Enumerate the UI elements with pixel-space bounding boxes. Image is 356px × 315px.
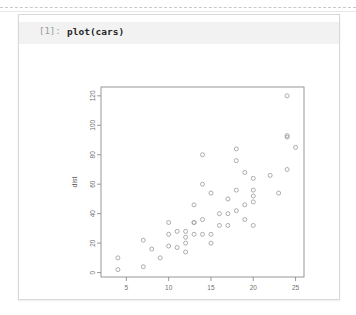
data-point — [175, 246, 179, 250]
y-axis-tick-label: 0 — [90, 270, 97, 274]
data-point — [167, 221, 171, 225]
y-axis-tick-label: 100 — [90, 119, 97, 130]
code-input-text[interactable]: plot(cars) — [67, 26, 124, 37]
data-point — [226, 223, 230, 227]
data-point — [167, 244, 171, 248]
data-point — [116, 256, 120, 260]
code-input-band[interactable]: [1]: plot(cars) — [19, 22, 339, 44]
data-point — [209, 241, 213, 245]
data-point — [201, 218, 205, 222]
scatter-plot: 020406080100120510152025speeddist — [19, 49, 341, 299]
x-axis-tick-label: 5 — [125, 284, 129, 291]
top-solid-rule — [0, 11, 356, 12]
data-point — [150, 247, 154, 251]
y-axis-tick-label: 60 — [90, 180, 97, 188]
data-point — [234, 159, 238, 163]
data-point — [294, 145, 298, 149]
data-point — [268, 173, 272, 177]
data-point — [243, 170, 247, 174]
data-point — [167, 232, 171, 236]
data-point — [251, 188, 255, 192]
data-point — [141, 265, 145, 269]
y-axis-title: dist — [71, 177, 78, 188]
data-point — [226, 197, 230, 201]
data-point — [184, 229, 188, 233]
data-point — [192, 232, 196, 236]
x-axis-tick-label: 15 — [207, 284, 215, 291]
data-point — [184, 250, 188, 254]
data-point — [192, 221, 196, 225]
data-point — [158, 256, 162, 260]
data-point — [184, 241, 188, 245]
data-point — [234, 209, 238, 213]
data-point — [234, 188, 238, 192]
notebook-cell-card: [1]: plot(cars) 020406080100120510152025… — [18, 14, 340, 300]
data-point — [116, 268, 120, 272]
execution-count-label: [1]: — [39, 26, 61, 36]
y-axis-tick-label: 120 — [90, 90, 97, 101]
plot-output-area: 020406080100120510152025speeddist — [19, 49, 339, 299]
y-axis-tick-label: 20 — [90, 239, 97, 247]
data-point — [251, 194, 255, 198]
data-point — [251, 200, 255, 204]
data-point — [175, 229, 179, 233]
data-point — [251, 223, 255, 227]
data-point — [251, 176, 255, 180]
data-point — [201, 153, 205, 157]
top-dashed-rule — [0, 7, 356, 8]
data-point — [141, 238, 145, 242]
data-point — [201, 182, 205, 186]
data-point — [192, 203, 196, 207]
data-point — [209, 232, 213, 236]
data-point — [243, 218, 247, 222]
data-point — [209, 191, 213, 195]
data-point — [217, 212, 221, 216]
x-axis-tick-label: 25 — [292, 284, 300, 291]
data-point — [184, 235, 188, 239]
data-point — [234, 147, 238, 151]
y-axis-tick-label: 40 — [90, 210, 97, 218]
data-point — [243, 203, 247, 207]
data-point — [217, 223, 221, 227]
x-axis-tick-label: 20 — [250, 284, 258, 291]
data-point — [285, 94, 289, 98]
x-axis-tick-label: 10 — [165, 284, 173, 291]
data-point — [226, 212, 230, 216]
data-point — [201, 232, 205, 236]
data-point — [285, 167, 289, 171]
y-axis-tick-label: 80 — [90, 151, 97, 159]
data-point — [277, 191, 281, 195]
